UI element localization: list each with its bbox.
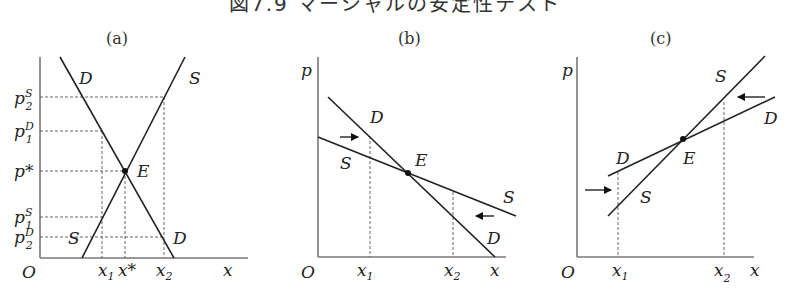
panel-c-label: (c) <box>650 29 671 48</box>
tick-x1: x1 <box>357 260 374 283</box>
demand-label-top: D <box>78 68 93 88</box>
demand-label-top: D <box>369 107 384 127</box>
panel-a-label: (a) <box>106 29 128 48</box>
supply-curve <box>608 56 765 216</box>
origin-label: O <box>301 262 315 282</box>
x-axis-label: x <box>223 260 233 280</box>
equilibrium-label: E <box>682 148 696 168</box>
panel-a: (a) D S E S D pS2 pD1 p* pS1 pD2 O x1 x*… <box>14 29 248 283</box>
tick-xstar: x* <box>118 260 137 280</box>
equilibrium-point <box>680 136 686 142</box>
supply-curve <box>318 137 516 216</box>
tick-pstar: p* <box>14 161 34 181</box>
demand-label-left: D <box>615 148 630 168</box>
tick-x2: x2 <box>444 260 461 283</box>
tick-p1D: pD1 <box>14 120 34 146</box>
supply-curve <box>82 57 185 258</box>
tick-x1: x1 <box>612 260 629 283</box>
tick-p2D: pD2 <box>14 226 34 252</box>
demand-curve <box>328 97 495 257</box>
panel-c: (c) p S D D E S O x1 x2 x <box>561 29 778 285</box>
tick-x2: x2 <box>714 260 731 285</box>
equilibrium-point <box>122 168 128 174</box>
origin-label: O <box>561 262 575 282</box>
demand-label-right: D <box>763 108 778 128</box>
equilibrium-point <box>405 170 411 176</box>
supply-label-bottom: S <box>640 187 652 207</box>
origin-label: O <box>22 262 36 282</box>
supply-label-right: S <box>503 187 515 207</box>
x-axis-label: x <box>490 260 500 280</box>
y-axis-label: p <box>301 60 312 80</box>
equilibrium-label: E <box>414 150 428 170</box>
demand-label-bottom: D <box>172 228 187 248</box>
tick-x2: x2 <box>156 260 173 283</box>
supply-label-bottom: S <box>68 228 80 248</box>
equilibrium-label: E <box>136 161 150 181</box>
supply-label-top: S <box>189 68 201 88</box>
x-axis-label: x <box>750 260 760 280</box>
tick-p2S: pS2 <box>14 87 33 113</box>
supply-label-top: S <box>715 66 727 86</box>
demand-label-bottom: D <box>486 228 501 248</box>
supply-label-left: S <box>340 153 352 173</box>
panel-b-label: (b) <box>398 29 421 48</box>
stability-diagram: (a) D S E S D pS2 pD1 p* pS1 pD2 O x1 x*… <box>0 0 790 296</box>
tick-x1: x1 <box>98 260 115 283</box>
panel-b: (b) p D S E S D O x1 x2 x <box>301 29 516 283</box>
y-axis-label: p <box>562 60 573 80</box>
